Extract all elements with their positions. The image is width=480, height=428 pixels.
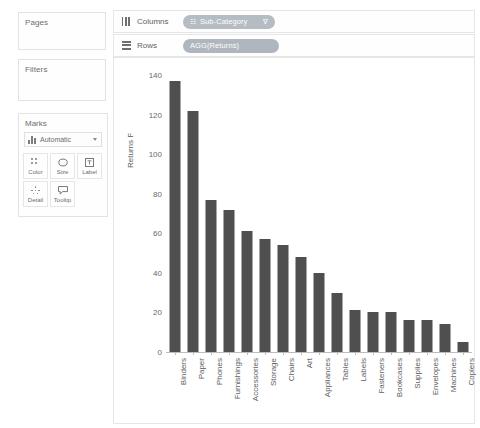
bars-area: BindersPaperPhonesFurnishingsAccessories… — [166, 58, 472, 423]
pages-shelf[interactable]: Pages — [18, 12, 106, 50]
marks-card-title: Marks — [19, 114, 107, 132]
bar-slot: Fasteners — [364, 58, 382, 423]
bar-slot: Chairs — [274, 58, 292, 423]
marks-tooltip-label: Tooltip — [54, 197, 71, 204]
left-shelf-panel: Pages Filters Marks Automatic Color — [18, 12, 106, 217]
bar-slot: Art — [292, 58, 310, 423]
pill-dimension-icon: ☷ — [190, 18, 196, 26]
x-tick-mark — [409, 352, 410, 355]
bar-slot: Accessories — [238, 58, 256, 423]
y-tick-label: 100 — [149, 150, 162, 159]
mark-type-dropdown[interactable]: Automatic — [24, 132, 102, 147]
bar-mark[interactable] — [458, 342, 469, 352]
bar-mark[interactable] — [224, 210, 235, 352]
bar-mark[interactable] — [170, 81, 181, 352]
chart-panel: Returns F 020406080100120140 BindersPape… — [113, 57, 475, 424]
y-axis-ticks: 020406080100120140 — [136, 58, 162, 423]
x-tick-mark — [283, 352, 284, 355]
bar-slot: Paper — [184, 58, 202, 423]
bar-mark[interactable] — [386, 312, 397, 352]
bar-mark[interactable] — [440, 324, 451, 352]
y-axis-title: Returns F — [126, 133, 135, 168]
chevron-down-icon[interactable] — [93, 138, 97, 141]
x-tick-mark — [337, 352, 338, 355]
bar-slot: Furnishings — [220, 58, 238, 423]
pill-agg-returns-label: AGG(Returns) — [190, 41, 239, 50]
x-tick-mark — [175, 352, 176, 355]
x-tick-mark — [319, 352, 320, 355]
pill-sub-category[interactable]: ☷ Sub-Category ∇ — [183, 15, 275, 29]
filters-shelf-label: Filters — [25, 65, 47, 74]
columns-shelf-label: Columns — [137, 17, 183, 26]
x-tick-mark — [355, 352, 356, 355]
marks-card: Marks Automatic Color — [18, 113, 108, 217]
marks-tooltip-button[interactable]: Tooltip — [50, 181, 75, 207]
filters-shelf[interactable]: Filters — [18, 59, 106, 101]
pill-sub-category-label: Sub-Category — [200, 17, 247, 26]
size-icon — [58, 157, 68, 168]
bar-slot: Tables — [328, 58, 346, 423]
x-tick-mark — [445, 352, 446, 355]
bar-slot: Storage — [256, 58, 274, 423]
bar-slot: Copiers — [454, 58, 472, 423]
x-tick-mark — [229, 352, 230, 355]
rows-shelf-label: Rows — [137, 41, 183, 50]
x-axis-label: Copiers — [467, 358, 476, 386]
pill-filter-icon[interactable]: ∇ — [251, 18, 268, 26]
bar-slot: Labels — [346, 58, 364, 423]
x-tick-mark — [193, 352, 194, 355]
y-tick-label: 20 — [153, 308, 162, 317]
bar-mark[interactable] — [350, 310, 361, 352]
mark-type-value: Automatic — [40, 136, 93, 143]
marks-size-label: Size — [57, 169, 69, 176]
y-tick-label: 40 — [153, 268, 162, 277]
pill-agg-returns[interactable]: AGG(Returns) — [183, 39, 279, 53]
y-tick-label: 80 — [153, 189, 162, 198]
bar-mark[interactable] — [188, 111, 199, 352]
bar-mark[interactable] — [422, 320, 433, 352]
y-tick-label: 140 — [149, 71, 162, 80]
bar-chart: Returns F 020406080100120140 BindersPape… — [114, 58, 474, 423]
x-tick-mark — [373, 352, 374, 355]
marks-color-label: Color — [28, 169, 42, 176]
bar-slot: Machines — [436, 58, 454, 423]
y-tick-label: 120 — [149, 110, 162, 119]
detail-dots-icon — [31, 185, 40, 196]
tooltip-icon — [58, 185, 68, 196]
bar-mark[interactable] — [242, 231, 253, 352]
tableau-worksheet: Pages Filters Marks Automatic Color — [0, 0, 480, 428]
bar-chart-icon — [28, 136, 36, 144]
marks-detail-button[interactable]: Detail — [23, 181, 48, 207]
x-tick-mark — [211, 352, 212, 355]
columns-icon — [119, 17, 133, 26]
bar-mark[interactable] — [278, 245, 289, 352]
rows-shelf[interactable]: Rows AGG(Returns) — [113, 34, 475, 57]
bar-slot: Appliances — [310, 58, 328, 423]
bar-mark[interactable] — [404, 320, 415, 352]
bar-slot: Bookcases — [382, 58, 400, 423]
y-tick-label: 0 — [158, 348, 162, 357]
bar-mark[interactable] — [368, 312, 379, 352]
x-tick-mark — [427, 352, 428, 355]
marks-color-button[interactable]: Color — [23, 153, 48, 179]
bar-slot: Envelopes — [418, 58, 436, 423]
bar-mark[interactable] — [314, 273, 325, 352]
columns-shelf[interactable]: Columns ☷ Sub-Category ∇ — [113, 10, 475, 33]
mark-property-buttons: Color Size — [19, 153, 107, 207]
y-tick-label: 60 — [153, 229, 162, 238]
pages-shelf-label: Pages — [25, 18, 48, 27]
bar-mark[interactable] — [332, 293, 343, 352]
bar-mark[interactable] — [296, 257, 307, 352]
x-tick-mark — [391, 352, 392, 355]
label-icon — [85, 157, 94, 168]
marks-label-button[interactable]: Label — [77, 153, 102, 179]
marks-size-button[interactable]: Size — [50, 153, 75, 179]
x-tick-mark — [463, 352, 464, 355]
bar-mark[interactable] — [260, 239, 271, 352]
rows-icon — [119, 41, 133, 50]
bar-slot: Binders — [166, 58, 184, 423]
bar-mark[interactable] — [206, 200, 217, 352]
marks-detail-label: Detail — [28, 197, 43, 204]
bar-slot: Supplies — [400, 58, 418, 423]
x-tick-mark — [247, 352, 248, 355]
